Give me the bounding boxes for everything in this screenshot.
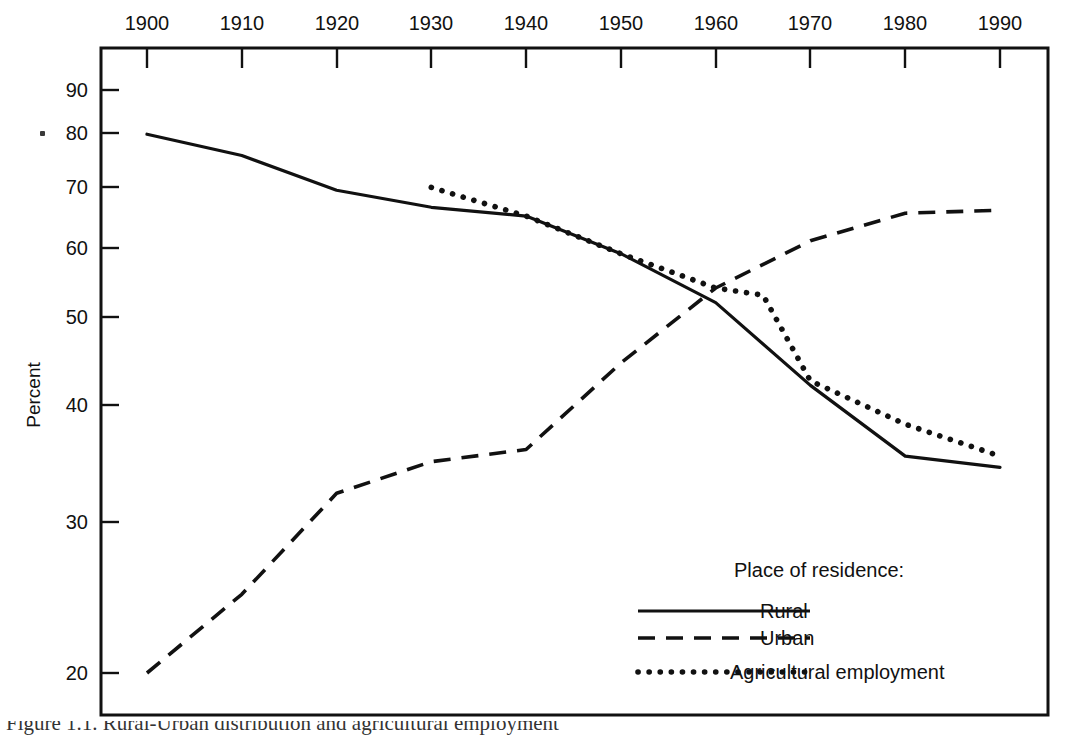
- line-chart-svg: 1900 1910 1920 1930 1940 1950 1960 1970 …: [0, 0, 1069, 735]
- x-axis-tick-labels: 1900 1910 1920 1930 1940 1950 1960 1970 …: [125, 12, 1023, 34]
- x-axis-ticks: [147, 48, 1000, 68]
- x-tick-label: 1980: [883, 12, 928, 34]
- figure-caption-clipped: Figure 1.1. Rural-Urban distribution and…: [0, 721, 1069, 735]
- y-tick-label: 70: [66, 176, 88, 198]
- x-tick-label: 1950: [599, 12, 644, 34]
- series-line-rural: [147, 134, 1000, 467]
- x-tick-label: 1990: [978, 12, 1023, 34]
- x-tick-label: 1960: [694, 12, 739, 34]
- scan-artifact-dot: [40, 131, 45, 136]
- figure-root: 1900 1910 1920 1930 1940 1950 1960 1970 …: [0, 0, 1069, 735]
- legend: Place of residence: Rural Urban Agricult…: [638, 559, 945, 683]
- y-tick-label: 20: [66, 662, 88, 684]
- y-tick-label: 30: [66, 511, 88, 533]
- x-tick-label: 1940: [504, 12, 549, 34]
- plot-frame: [101, 48, 1048, 715]
- y-tick-label: 40: [66, 394, 88, 416]
- y-axis-tick-labels: 90 80 70 60 50 40 30 20: [66, 79, 88, 684]
- x-tick-label: 1920: [315, 12, 360, 34]
- legend-label-rural: Rural: [760, 600, 808, 622]
- x-tick-label: 1930: [409, 12, 454, 34]
- series-line-agricultural-employment: [431, 187, 1000, 456]
- y-axis-title: Percent: [23, 362, 44, 428]
- x-tick-label: 1910: [220, 12, 265, 34]
- x-tick-label: 1970: [788, 12, 833, 34]
- legend-title: Place of residence:: [734, 559, 904, 581]
- series-line-urban: [147, 210, 1000, 673]
- legend-label-urban: Urban: [760, 627, 814, 649]
- figure-caption-text: Figure 1.1. Rural-Urban distribution and…: [6, 721, 559, 735]
- y-tick-label: 80: [66, 122, 88, 144]
- y-tick-label: 90: [66, 79, 88, 101]
- chart-canvas: 1900 1910 1920 1930 1940 1950 1960 1970 …: [0, 0, 1069, 735]
- x-tick-label: 1900: [125, 12, 170, 34]
- y-axis-ticks: [101, 90, 119, 673]
- y-tick-label: 50: [66, 306, 88, 328]
- legend-label-agricultural-employment: Agricultural employment: [730, 661, 945, 683]
- y-tick-label: 60: [66, 237, 88, 259]
